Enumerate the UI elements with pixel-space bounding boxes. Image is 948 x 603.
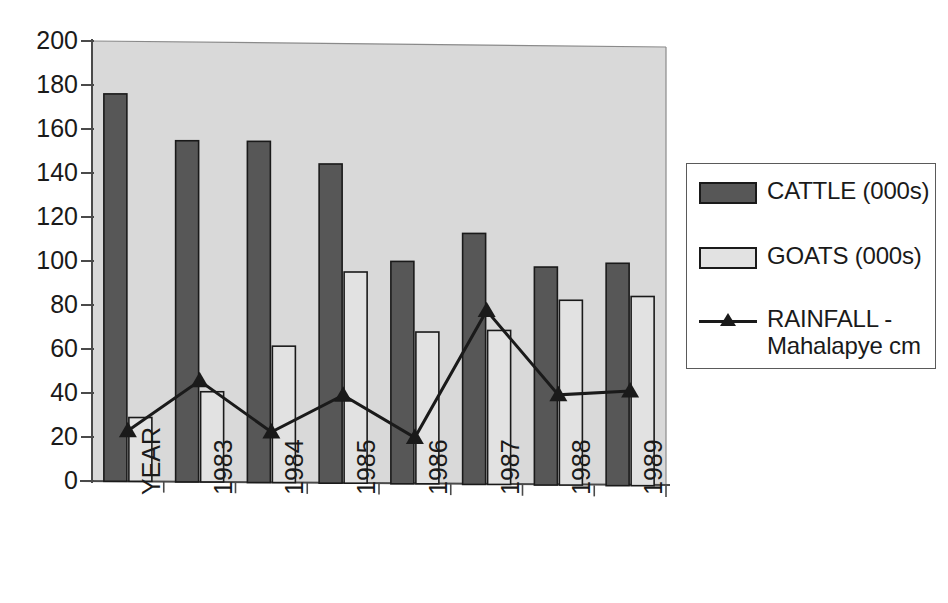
x-axis-tick-label: 1988 — [569, 439, 594, 495]
legend-label-cattle: CATTLE (000s) — [767, 178, 929, 205]
x-axis-tick-label: 1986 — [426, 439, 451, 495]
x-axis-tick-label: 1987 — [498, 439, 523, 495]
x-axis-tick-label: 1985 — [354, 439, 379, 495]
x-axis-tick-label: YEAR — [139, 427, 164, 495]
legend-label-rainfall: RAINFALL -Mahalapye cm — [767, 306, 921, 360]
legend-item-cattle: CATTLE (000s) — [699, 178, 929, 205]
legend-swatch-goats — [699, 247, 757, 269]
bar-cattle — [534, 267, 557, 485]
x-axis-tick-label: 1983 — [211, 439, 236, 495]
legend-item-goats: GOATS (000s) — [699, 243, 922, 270]
bar-cattle — [463, 233, 486, 484]
bar-cattle — [391, 261, 414, 483]
bar-cattle — [319, 164, 342, 483]
triangle-marker-icon — [720, 313, 736, 326]
legend-swatch-cattle — [699, 182, 757, 204]
legend-item-rainfall: RAINFALL -Mahalapye cm — [699, 306, 921, 360]
bar-cattle — [104, 94, 127, 481]
legend-label-goats: GOATS (000s) — [767, 243, 922, 270]
bar-cattle — [176, 141, 199, 482]
x-axis-tick-label: 1989 — [641, 439, 666, 495]
bar-cattle — [606, 263, 629, 485]
x-axis-tick-label: 1984 — [282, 439, 307, 495]
legend-marker-rainfall — [699, 310, 757, 332]
chart-container: 020406080100120140160180200 YEAR19831984… — [0, 0, 948, 603]
chart-legend: CATTLE (000s) GOATS (000s) RAINFALL -Mah… — [686, 163, 936, 369]
